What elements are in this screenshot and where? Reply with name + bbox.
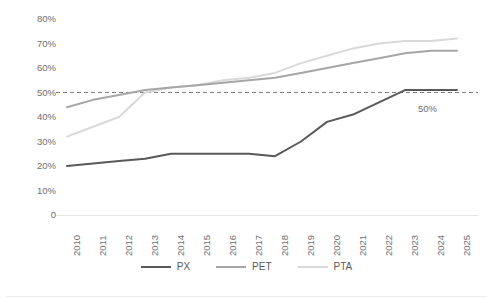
legend-label: PX xyxy=(177,262,190,272)
reference-line-label: 50% xyxy=(418,103,437,114)
x-axis-tick-label: 2011 xyxy=(97,236,108,256)
legend-item-px[interactable]: PX xyxy=(141,262,190,272)
x-axis-tick-label: 2015 xyxy=(201,235,212,256)
legend: PXPETPTA xyxy=(0,262,493,272)
legend-label: PET xyxy=(252,262,271,272)
legend-swatch-pet-icon xyxy=(216,266,246,268)
series-line-px xyxy=(67,90,457,166)
x-axis-tick-label: 2022 xyxy=(383,235,394,256)
x-axis-tick-label: 2020 xyxy=(331,235,342,256)
x-axis-tick-label: 2019 xyxy=(305,235,316,256)
x-axis-tick-label: 2025 xyxy=(461,235,472,256)
x-axis-tick-label: 2014 xyxy=(175,235,186,256)
x-axis-tick-label: 2023 xyxy=(409,235,420,256)
line-chart: 80%70%60%50%40%30%20%10%0 20102011201220… xyxy=(0,0,493,299)
x-axis-tick-label: 2024 xyxy=(435,235,446,256)
legend-swatch-pta-icon xyxy=(298,266,328,268)
legend-item-pta[interactable]: PTA xyxy=(298,262,353,272)
bottom-divider xyxy=(6,296,487,297)
legend-label: PTA xyxy=(334,262,353,272)
x-axis-tick-label: 2010 xyxy=(71,235,82,256)
x-axis-tick-label: 2016 xyxy=(227,235,238,256)
x-axis-tick-label: 2017 xyxy=(253,235,264,256)
x-axis-tick-label: 2021 xyxy=(357,235,368,256)
x-axis-tick-label: 2012 xyxy=(123,235,134,256)
series-line-pet xyxy=(67,51,457,107)
x-axis-tick-label: 2013 xyxy=(149,235,160,256)
legend-swatch-px-icon xyxy=(141,266,171,268)
x-axis-tick-label: 2018 xyxy=(279,235,290,256)
legend-item-pet[interactable]: PET xyxy=(216,262,271,272)
series-line-pta xyxy=(67,39,457,137)
